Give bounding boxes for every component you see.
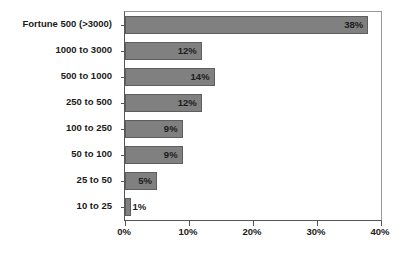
bar-value-label: 12% [125,94,197,112]
bar-row: 1% [125,198,381,216]
y-axis-tick [121,77,125,78]
bar-value-label: 9% [125,146,178,164]
y-axis-tick [121,103,125,104]
y-axis-tick [121,25,125,26]
category-label: 100 to 250 [66,119,112,137]
y-axis-tick [121,51,125,52]
bar-row: 38% [125,16,381,34]
category-label: 25 to 50 [77,171,112,189]
y-axis-tick [121,155,125,156]
bar-value-label: 38% [125,16,363,34]
bar [125,198,131,216]
category-label: 250 to 500 [66,93,112,111]
x-axis-label: 40% [357,226,401,237]
bar-row: 9% [125,120,381,138]
plot-area: 38%12%14%12%9%9%5%1% [124,11,382,221]
bar-value-label: 1% [132,198,146,216]
bars-layer: 38%12%14%12%9%9%5%1% [125,12,381,220]
category-label: 10 to 25 [77,197,112,215]
y-axis-tick [121,207,125,208]
category-label: 1000 to 3000 [55,41,112,59]
y-axis-tick [121,181,125,182]
bar-row: 12% [125,94,381,112]
x-axis-label: 10% [165,226,211,237]
y-axis-tick [121,129,125,130]
category-label: Fortune 500 (>3000) [23,15,113,33]
x-axis-label: 0% [101,226,147,237]
category-label: 500 to 1000 [61,67,112,85]
bar-row: 12% [125,42,381,60]
bar-value-label: 5% [125,172,152,190]
bar-value-label: 14% [125,68,210,86]
category-axis-labels: Fortune 500 (>3000)1000 to 3000500 to 10… [0,11,118,219]
bar-row: 9% [125,146,381,164]
bar-row: 14% [125,68,381,86]
x-axis-label: 30% [293,226,339,237]
category-label: 50 to 100 [71,145,112,163]
bar-chart: Fortune 500 (>3000)1000 to 3000500 to 10… [0,0,401,258]
x-axis-labels: 0%10%20%30%40% [124,226,380,242]
bar-value-label: 9% [125,120,178,138]
bar-row: 5% [125,172,381,190]
x-axis-label: 20% [229,226,275,237]
bar-value-label: 12% [125,42,197,60]
